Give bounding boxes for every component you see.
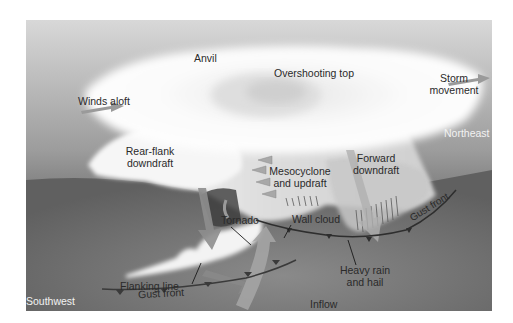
label-storm-movement: Storm movement (424, 72, 484, 96)
label-forward-line1: Forward (346, 152, 406, 164)
storm-diagram: Anvil Winds aloft Overshooting top Storm… (26, 20, 492, 311)
storm-illustration (26, 20, 492, 311)
label-tornado: Tornado (221, 214, 259, 226)
label-rear-flank-line2: downdraft (120, 157, 180, 169)
label-gust-front-bottom: Gust front (138, 286, 185, 300)
label-anvil: Anvil (194, 52, 217, 64)
label-mesocyclone-line1: Mesocyclone (264, 165, 336, 177)
label-overshooting-top: Overshooting top (274, 67, 354, 79)
label-storm-movement-line2: movement (424, 84, 484, 96)
label-storm-movement-line1: Storm (424, 72, 484, 84)
label-inflow: Inflow (310, 298, 337, 310)
label-wall-cloud: Wall cloud (292, 213, 340, 225)
label-heavy-rain-hail: Heavy rain and hail (337, 264, 393, 288)
label-heavy-rain-line2: and hail (337, 276, 393, 288)
label-rear-flank-line1: Rear-flank (120, 145, 180, 157)
label-forward-line2: downdraft (346, 164, 406, 176)
label-southwest: Southwest (26, 295, 75, 307)
label-mesocyclone-updraft: Mesocyclone and updraft (264, 165, 336, 189)
label-rear-flank-downdraft: Rear-flank downdraft (120, 145, 180, 169)
label-northeast: Northeast (444, 127, 490, 139)
label-forward-downdraft: Forward downdraft (346, 152, 406, 176)
label-heavy-rain-line1: Heavy rain (337, 264, 393, 276)
label-winds-aloft: Winds aloft (78, 95, 130, 107)
label-mesocyclone-line2: and updraft (264, 177, 336, 189)
